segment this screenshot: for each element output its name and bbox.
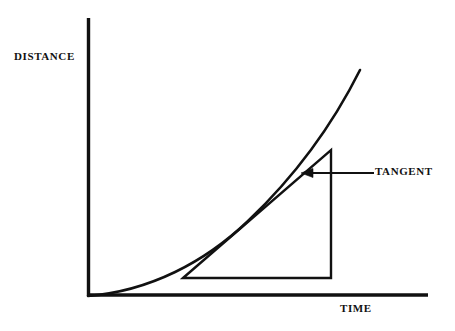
distance-time-curve: [88, 70, 360, 296]
tangent-annotation-label: TANGENT: [375, 166, 433, 177]
x-axis-label: TIME: [340, 303, 372, 314]
distance-time-tangent-figure: DISTANCE TIME TANGENT: [0, 0, 455, 331]
y-axis-label: DISTANCE: [14, 51, 75, 62]
tangent-triangle: [183, 150, 331, 278]
